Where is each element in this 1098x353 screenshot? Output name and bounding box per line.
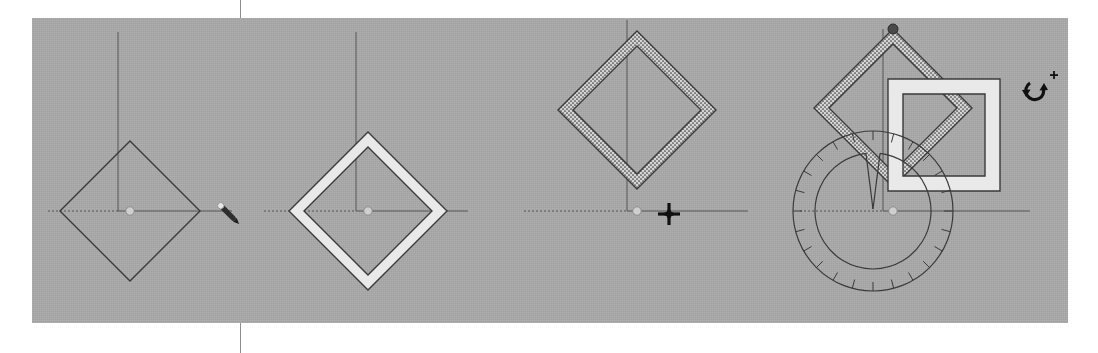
origin-marker [364,207,372,215]
panel-4[interactable] [793,24,1030,291]
protractor-tick [909,142,914,150]
protractor-tick [942,229,951,231]
protractor-tick [934,171,942,176]
figure-stage: Draw diamond Offset band Select and move… [0,0,1098,353]
diamond-band-selected[interactable] [558,31,716,189]
panel-1[interactable] [48,32,232,281]
rotation-handle[interactable] [888,24,898,34]
panel-3[interactable] [524,20,748,215]
drawing-canvas[interactable] [32,18,1068,323]
protractor-tick [923,261,929,267]
protractor-tick [804,171,812,176]
protractor-tick [852,280,854,289]
figure-artwork [32,18,1068,323]
panel-2[interactable] [264,32,468,290]
origin-marker [126,207,134,215]
origin-marker [633,207,641,215]
protractor-tick [934,247,942,252]
protractor-tick [796,229,805,231]
protractor-tick [909,272,914,280]
protractor-tick [833,272,838,280]
protractor-tick [816,261,822,267]
protractor-tick [891,280,893,289]
protractor-tick [833,142,838,150]
protractor-tick [796,190,805,192]
origin-marker [889,207,897,215]
protractor-tick [804,247,812,252]
protractor-tick [816,154,822,160]
